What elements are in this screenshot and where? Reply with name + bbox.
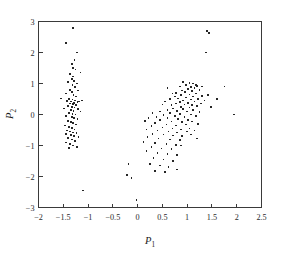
data-point: [80, 72, 82, 74]
data-point: [195, 84, 197, 86]
data-points-layer: [60, 27, 235, 201]
data-point: [73, 80, 75, 82]
data-point: [75, 104, 77, 106]
data-point: [154, 142, 156, 144]
y-tick-label: −3: [26, 204, 35, 213]
data-point: [167, 153, 169, 155]
data-point: [143, 141, 145, 143]
x-tick-label: 0.5: [157, 213, 167, 222]
data-point: [69, 89, 71, 91]
data-point: [182, 100, 184, 102]
x-tick-label: 1: [185, 213, 189, 222]
data-point: [175, 125, 177, 127]
svg-text:P2: P2: [4, 109, 18, 120]
data-point: [179, 101, 181, 103]
data-point: [77, 101, 79, 103]
data-point: [72, 145, 74, 147]
data-point: [168, 131, 170, 133]
data-point: [181, 90, 183, 92]
data-point: [176, 132, 178, 134]
data-point: [171, 104, 173, 106]
data-point: [205, 52, 207, 54]
data-point: [176, 110, 178, 112]
data-point: [189, 94, 191, 96]
data-point: [189, 107, 191, 109]
data-point: [72, 84, 74, 86]
data-point: [64, 125, 66, 127]
data-point: [74, 100, 76, 102]
data-point: [194, 130, 196, 132]
data-point: [74, 140, 76, 142]
data-point: [80, 111, 82, 113]
data-point: [76, 83, 78, 85]
data-point: [70, 109, 72, 111]
data-point: [68, 112, 70, 114]
data-point: [171, 121, 173, 123]
data-point: [185, 97, 187, 99]
data-point: [70, 101, 72, 103]
data-point: [169, 98, 171, 100]
data-point: [172, 108, 174, 110]
data-point: [200, 103, 202, 105]
data-point: [182, 81, 184, 83]
data-point: [72, 132, 74, 134]
x-tick-label: −1.5: [56, 213, 71, 222]
data-point: [63, 108, 65, 110]
x-axis-ticks: −2−1.5−1−0.500.511.522.5: [34, 204, 266, 222]
data-point: [65, 115, 67, 117]
data-point: [175, 92, 177, 94]
data-point: [190, 134, 192, 136]
data-point: [152, 133, 154, 135]
data-point: [195, 93, 197, 95]
data-point: [66, 100, 68, 102]
data-point: [146, 129, 148, 131]
data-point: [67, 120, 69, 122]
data-point: [187, 119, 189, 121]
y-tick-label: 0: [30, 111, 34, 120]
data-point: [154, 170, 156, 172]
data-point: [65, 93, 67, 95]
data-point: [210, 106, 212, 108]
data-point: [179, 139, 181, 141]
data-point: [192, 83, 194, 85]
data-point: [201, 95, 203, 97]
data-point: [75, 96, 77, 98]
data-point: [73, 117, 75, 119]
y-tick-label: −1: [26, 142, 35, 151]
plot-canvas: −2−1.5−1−0.500.511.522.5 −3−2−10123 P1 P…: [0, 0, 281, 253]
data-point: [190, 86, 192, 88]
data-point: [184, 104, 186, 106]
y-tick-label: −2: [26, 173, 35, 182]
data-point: [148, 117, 150, 119]
data-point: [131, 177, 133, 179]
data-point: [74, 86, 76, 88]
data-point: [72, 76, 74, 78]
data-point: [169, 112, 171, 114]
data-point: [72, 113, 74, 115]
data-point: [158, 138, 160, 140]
data-point: [151, 125, 153, 127]
data-point: [194, 87, 196, 89]
data-point: [206, 30, 208, 32]
data-point: [75, 69, 77, 71]
data-point: [172, 160, 174, 162]
y-tick-label: 1: [30, 80, 34, 89]
data-point: [76, 52, 78, 54]
data-point: [176, 169, 178, 171]
data-point: [172, 128, 174, 130]
data-point: [195, 115, 197, 117]
data-point: [204, 100, 206, 102]
data-point: [128, 163, 130, 165]
data-point: [197, 98, 199, 100]
data-point: [76, 132, 78, 134]
data-point: [68, 147, 70, 149]
data-point: [167, 117, 169, 119]
data-point: [73, 94, 75, 96]
data-point: [78, 101, 80, 103]
data-point: [197, 123, 199, 125]
data-point: [192, 96, 194, 98]
scatter-plot-figure: −2−1.5−1−0.500.511.522.5 −3−2−10123 P1 P…: [0, 0, 281, 253]
data-point: [149, 163, 151, 165]
data-point: [144, 120, 146, 122]
data-point: [196, 138, 198, 140]
